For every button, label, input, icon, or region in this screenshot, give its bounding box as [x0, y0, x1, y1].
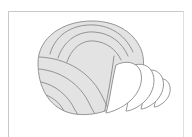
illustration-canvas: [0, 0, 192, 137]
shell-fan-lobes: [106, 62, 170, 113]
seashell-illustration: [0, 0, 192, 137]
